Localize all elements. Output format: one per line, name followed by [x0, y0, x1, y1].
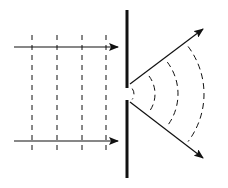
plane-wavefronts	[32, 35, 106, 153]
diffracted-rays	[130, 29, 203, 158]
single-slit-diffraction-diagram	[0, 0, 228, 188]
incident-rays	[14, 47, 118, 141]
circular-wavefront-arc	[132, 89, 134, 100]
circular-wavefront-arc	[167, 62, 178, 126]
diffracted-arrow	[130, 29, 203, 84]
circular-wavefront-arc	[188, 46, 204, 141]
diffracted-arrow	[130, 102, 203, 158]
circular-wavefronts	[132, 46, 204, 141]
circular-wavefront-arc	[149, 76, 155, 112]
